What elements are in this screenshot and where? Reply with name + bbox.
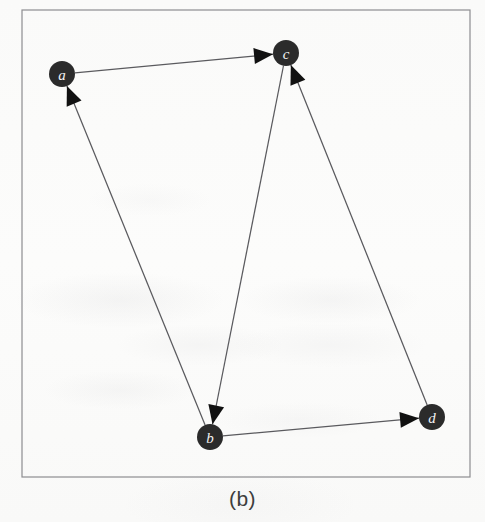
arrowhead-d-to-c: [290, 65, 305, 86]
graph-edge-c-to-b: [213, 66, 284, 425]
graph-node-a[interactable]: a: [49, 61, 75, 87]
directed-graph-canvas: abcd: [0, 0, 485, 522]
figure-caption: (b): [0, 487, 485, 511]
arrowhead-b-to-a: [67, 86, 82, 107]
node-label-d: d: [428, 410, 436, 426]
edge-layer: [67, 54, 427, 436]
node-layer: abcd: [49, 40, 445, 450]
node-label-a: a: [58, 67, 66, 83]
arrowhead-b-to-d: [399, 412, 419, 428]
graph-edge-a-to-c: [75, 54, 273, 73]
figure-frame: [22, 10, 470, 477]
graph-edge-b-to-d: [223, 418, 419, 436]
graph-edge-b-to-a: [67, 86, 205, 425]
arrowhead-a-to-c: [253, 48, 273, 64]
node-label-c: c: [283, 46, 290, 62]
graph-node-b[interactable]: b: [197, 424, 223, 450]
arrowhead-layer: [67, 48, 419, 428]
graph-node-d[interactable]: d: [419, 404, 445, 430]
arrowhead-c-to-b: [208, 404, 224, 424]
graph-node-c[interactable]: c: [273, 40, 299, 66]
graph-edge-d-to-c: [291, 65, 427, 405]
figure-root: abcd (b): [0, 0, 485, 522]
node-label-b: b: [206, 430, 214, 446]
